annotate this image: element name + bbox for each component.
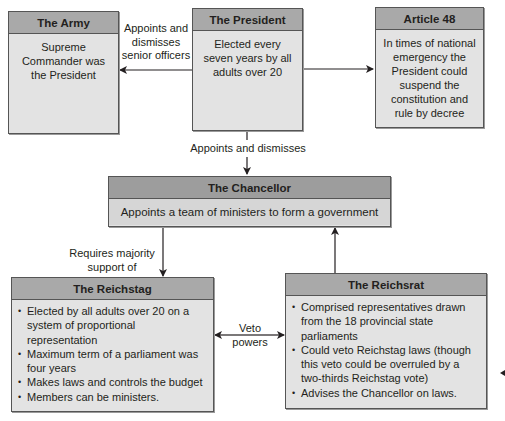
- edge-label-president-army: Appoints and dismisses senior officers: [121, 22, 191, 63]
- list-item: Maximum term of a parliament was four ye…: [18, 347, 207, 376]
- list-item: Advises the Chancellor on laws.: [292, 386, 480, 400]
- node-chancellor-title: The Chancellor: [109, 177, 390, 199]
- node-army-body: Supreme Commander was the President: [9, 34, 118, 88]
- node-article48-title: Article 48: [376, 8, 483, 30]
- node-reichsrat: The Reichsrat Comprised representatives …: [285, 273, 487, 409]
- node-president-body: Elected every seven years by all adults …: [193, 31, 302, 85]
- page-marker-arrow-icon: [500, 370, 505, 376]
- edge-label-veto-powers: Veto powers: [227, 321, 273, 349]
- node-president: The President Elected every seven years …: [192, 8, 303, 131]
- node-article48-body: In times of national emergency the Presi…: [376, 30, 483, 126]
- node-reichstag-title: The Reichstag: [12, 278, 213, 300]
- list-item: Could veto Reichstag laws (though this v…: [292, 343, 480, 386]
- list-item: Comprised representatives drawn from the…: [292, 300, 480, 343]
- node-president-title: The President: [193, 9, 302, 31]
- node-chancellor: The Chancellor Appoints a team of minist…: [108, 176, 391, 227]
- node-army: The Army Supreme Commander was the Presi…: [8, 11, 119, 134]
- node-reichstag-bullets: Elected by all adults over 20 on a syste…: [12, 300, 213, 408]
- node-reichsrat-title: The Reichsrat: [286, 274, 486, 296]
- node-article48: Article 48 In times of national emergenc…: [375, 7, 484, 128]
- node-army-title: The Army: [9, 12, 118, 34]
- node-chancellor-body: Appoints a team of ministers to form a g…: [109, 199, 390, 225]
- list-item: Elected by all adults over 20 on a syste…: [18, 304, 207, 347]
- edge-label-chancellor-reichstag: Requires majority support of: [62, 247, 162, 274]
- list-item: Members can be ministers.: [18, 390, 207, 404]
- node-reichstag: The Reichstag Elected by all adults over…: [11, 277, 214, 412]
- node-reichsrat-bullets: Comprised representatives drawn from the…: [286, 296, 486, 404]
- edge-label-president-chancellor: Appoints and dismisses: [170, 142, 326, 156]
- list-item: Makes laws and controls the budget: [18, 375, 207, 389]
